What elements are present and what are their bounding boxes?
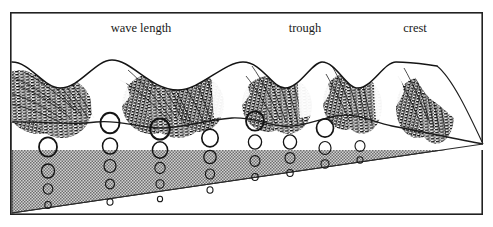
orbit-circle: [207, 187, 213, 193]
wave-diagram-canvas: wave length trough crest: [0, 0, 493, 227]
label-trough: trough: [289, 21, 322, 35]
label-wave-length: wave length: [111, 21, 172, 35]
orbit-circle: [157, 196, 162, 202]
wave-diagram-figure: wave length trough crest: [0, 0, 493, 227]
orbit-circle: [107, 199, 113, 205]
wave-surface-shading: [0, 50, 493, 160]
label-crest: crest: [403, 21, 427, 35]
